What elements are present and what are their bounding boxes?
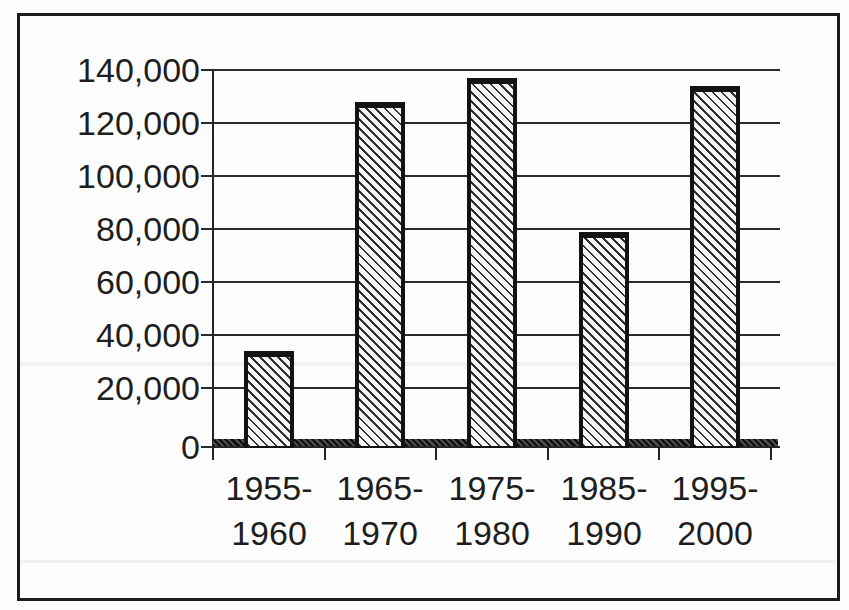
x-label-line1: 1995-: [653, 466, 777, 511]
y-tick-100000: [201, 175, 213, 177]
y-axis-label: 60,000: [36, 262, 200, 302]
x-tick: [658, 447, 660, 460]
y-axis-label: 100,000: [36, 156, 200, 196]
bar-1965-1970: [355, 102, 405, 448]
x-label-line1: 1965-: [318, 466, 442, 511]
bar-1975-1980: [467, 78, 517, 448]
y-tick-60000: [201, 281, 213, 283]
bar-1985-1990: [579, 232, 629, 448]
x-label-line1: 1955-: [207, 466, 331, 511]
y-axis-label: 20,000: [36, 368, 200, 408]
y-axis-label: 140,000: [36, 50, 200, 90]
y-axis-label: 80,000: [36, 209, 200, 249]
x-label-line2: 2000: [653, 511, 777, 556]
x-label-line2: 1980: [430, 511, 554, 556]
y-axis-label: 120,000: [36, 103, 200, 143]
x-label-line1: 1985-: [542, 466, 666, 511]
bar-1995-2000: [690, 86, 740, 448]
x-tick: [212, 447, 214, 460]
y-tick-40000: [201, 334, 213, 336]
x-label-line2: 1970: [318, 511, 442, 556]
x-tick: [770, 447, 772, 460]
y-tick-140000: [201, 69, 213, 71]
y-tick-120000: [201, 122, 213, 124]
gridline-140000: [213, 69, 780, 71]
x-axis-label: 1995-2000: [653, 466, 777, 556]
y-axis-label: 0: [36, 427, 200, 467]
x-axis-label: 1955-1960: [207, 466, 331, 556]
scanned-bar-chart-page: 140,000120,000100,00080,00060,00040,0002…: [0, 0, 849, 610]
x-label-line1: 1975-: [430, 466, 554, 511]
bar-1955-1960: [244, 351, 294, 448]
x-label-line2: 1960: [207, 511, 331, 556]
x-axis-label: 1965-1970: [318, 466, 442, 556]
y-tick-80000: [201, 228, 213, 230]
x-tick: [435, 447, 437, 460]
x-tick: [324, 447, 326, 460]
y-tick-20000: [201, 387, 213, 389]
x-axis-label: 1985-1990: [542, 466, 666, 556]
y-axis-line: [212, 70, 214, 460]
x-axis-label: 1975-1980: [430, 466, 554, 556]
x-tick: [547, 447, 549, 460]
x-label-line2: 1990: [542, 511, 666, 556]
y-axis-label: 40,000: [36, 315, 200, 355]
